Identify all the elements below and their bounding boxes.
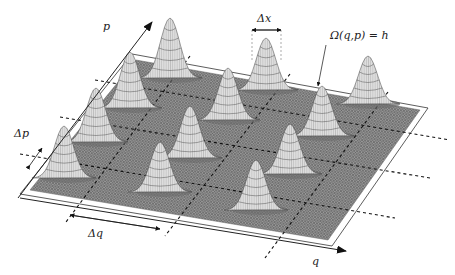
surface-pointer: [318, 45, 326, 86]
delta-q-arrow-back: [70, 215, 160, 229]
delta-p-label: Δp: [13, 127, 29, 140]
delta-x-label: Δx: [256, 12, 272, 25]
delta-q-label: Δq: [87, 227, 103, 240]
surface-equation-label: Ω(q,p) = h: [329, 29, 389, 42]
phase-space-lattice-figure: p q Δp Δq Δx Ω(q,p) = h: [0, 0, 455, 275]
p-axis-label: p: [103, 20, 110, 33]
q-axis-label: q: [312, 255, 319, 268]
